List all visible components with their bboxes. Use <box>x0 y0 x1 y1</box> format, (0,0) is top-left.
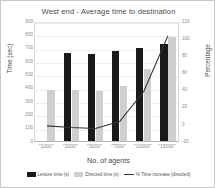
x-axis-tick: "15000" <box>155 144 179 149</box>
legend-label-directed-time: Directed time (s) <box>85 172 119 177</box>
y-axis-tick-left: 100 <box>11 126 33 131</box>
x-axis-tick: "3000" <box>82 144 106 149</box>
y-axis-tick-left: 800 <box>11 33 33 38</box>
y-axis-tick-left: 200 <box>11 113 33 118</box>
x-axis-label: No. of agents <box>1 156 215 165</box>
legend-label-time-increase: % Time increase (directed) <box>136 172 191 177</box>
y-axis-tick-right: 40 <box>182 88 206 93</box>
y-axis-tick-left: 600 <box>11 60 33 65</box>
y-axis-tick-left: 700 <box>11 46 33 51</box>
y-axis-tick-left: 500 <box>11 73 33 78</box>
plot-area <box>34 22 179 142</box>
y-axis-tick-right: -20 <box>182 140 206 145</box>
y-axis-tick-right: 80 <box>182 54 206 59</box>
trend-line <box>35 23 180 143</box>
legend-label-leisure-time: Leisure time (s) <box>38 172 70 177</box>
x-axis-tick: "7000" <box>107 144 131 149</box>
y-axis-tick-left: 400 <box>11 86 33 91</box>
x-axis-tick: "2000" <box>58 144 82 149</box>
chart-title: West end - Average time to destination <box>1 7 215 16</box>
x-axis-tick: "10000" <box>131 144 155 149</box>
legend-swatch-directed-time <box>74 172 83 177</box>
legend-item-directed-time: Directed time (s) <box>74 172 119 177</box>
y-axis-tick-right: 20 <box>182 105 206 110</box>
legend-item-leisure-time: Leisure time (s) <box>27 172 70 177</box>
chart-container: West end - Average time to destination T… <box>0 0 215 188</box>
y-axis-tick-left: 300 <box>11 100 33 105</box>
y-axis-tick-right: 0 <box>182 123 206 128</box>
legend-swatch-time-increase <box>124 174 134 175</box>
legend-item-time-increase: % Time increase (directed) <box>124 172 191 177</box>
y-axis-tick-right: 100 <box>182 37 206 42</box>
y-axis-tick-left: 900 <box>11 20 33 25</box>
x-axis-tick: "1000" <box>34 144 58 149</box>
y-axis-tick-right: 60 <box>182 71 206 76</box>
y-axis-tick-right: 120 <box>182 20 206 25</box>
legend-swatch-leisure-time <box>27 172 36 177</box>
y-axis-tick-left: 0 <box>11 140 33 145</box>
chart-legend: Leisure time (s) Directed time (s) % Tim… <box>1 172 215 177</box>
